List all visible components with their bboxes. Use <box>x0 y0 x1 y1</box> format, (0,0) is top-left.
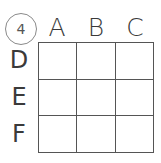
grid-cell-e-c[interactable] <box>116 80 154 116</box>
grid-cell-e-a[interactable] <box>39 80 77 116</box>
column-label-a: A <box>38 14 76 42</box>
grid-cell-d-b[interactable] <box>77 43 116 80</box>
grid-cell-e-b[interactable] <box>77 80 116 116</box>
grid-cell-f-a[interactable] <box>39 116 77 153</box>
column-label-c: C <box>116 14 154 42</box>
column-label-b: B <box>77 14 115 42</box>
grid-cell-d-c[interactable] <box>116 43 154 80</box>
row-label-d: D <box>4 46 34 74</box>
puzzle-number: 4 <box>17 22 26 36</box>
grid-cell-f-c[interactable] <box>116 116 154 153</box>
puzzle-number-badge: 4 <box>5 13 37 45</box>
row-label-f: F <box>4 120 34 148</box>
grid-cell-d-a[interactable] <box>39 43 77 80</box>
row-label-e: E <box>4 83 34 111</box>
grid <box>38 42 154 153</box>
grid-cell-f-b[interactable] <box>77 116 116 153</box>
